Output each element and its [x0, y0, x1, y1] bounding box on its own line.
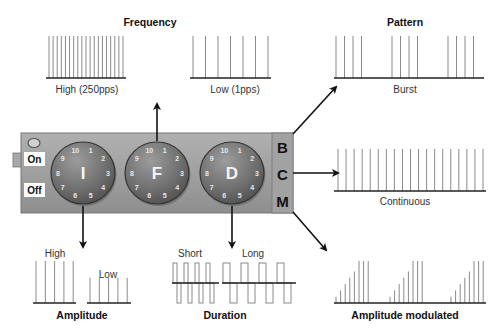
dial-number: 6: [222, 192, 226, 199]
pulse-phase-negative: [248, 283, 255, 303]
pulse-phase-negative: [210, 283, 214, 303]
pulse-phase-positive: [173, 263, 177, 283]
dial-number: 5: [89, 192, 93, 199]
off-label: Off: [27, 185, 42, 196]
dial-number: 3: [106, 170, 110, 177]
continuous-label: Continuous: [380, 196, 431, 207]
knob-letter: D: [226, 164, 238, 183]
dial-number: 3: [180, 170, 184, 177]
dial-number: 7: [210, 184, 214, 191]
pulse-phase-positive: [241, 263, 248, 283]
dial-number: 2: [175, 155, 179, 162]
dial-number: 9: [210, 155, 214, 162]
tens-diagram: Frequency Pattern High (250pps) Low (1pp…: [0, 0, 498, 333]
dial-number: 5: [238, 192, 242, 199]
dial-number: 9: [61, 155, 65, 162]
dial-number: 4: [175, 184, 179, 191]
dial-number: 8: [205, 170, 209, 177]
on-label: On: [28, 154, 42, 165]
continuous-waveform: [334, 149, 486, 191]
mode-button-modulated[interactable]: M: [276, 193, 289, 210]
amplitude-modulated-waveform: [334, 261, 486, 303]
dial-number: 8: [130, 170, 134, 177]
indicator-light-icon: [28, 139, 40, 148]
dial-number: 7: [61, 184, 65, 191]
dial-number: 10: [145, 147, 153, 154]
knob-letter: F: [152, 164, 162, 183]
duration-short-label: Short: [178, 248, 202, 259]
pulse-phase-positive: [206, 263, 210, 283]
frequency-high-waveform: [46, 36, 126, 78]
stimulator-device: On Off 10123456789I10123456789F101234567…: [13, 133, 293, 213]
pulse-phase-positive: [277, 263, 284, 283]
amplitude-high-waveform: [33, 261, 76, 303]
dial-number: 10: [71, 147, 79, 154]
mode-button-continuous[interactable]: C: [277, 166, 288, 183]
pulse-phase-positive: [184, 263, 188, 283]
pulse-phase-positive: [259, 263, 266, 283]
dial-number: 3: [255, 170, 259, 177]
dial-number: 6: [73, 192, 77, 199]
pattern-title: Pattern: [387, 16, 423, 28]
dial-number: 1: [238, 147, 242, 154]
mode-button-burst[interactable]: B: [277, 139, 288, 156]
frequency-high-label: High (250pps): [56, 84, 119, 95]
dial-number: 1: [89, 147, 93, 154]
burst-label: Burst: [393, 84, 417, 95]
duration-waveform: [172, 263, 296, 303]
dial-number: 2: [101, 155, 105, 162]
pulse-phase-negative: [177, 283, 181, 303]
amplitude-modulated-label: Amplitude modulated: [351, 309, 458, 321]
pulse-phase-negative: [188, 283, 192, 303]
dial-number: 1: [163, 147, 167, 154]
arrow-to-amplitude-modulated: [293, 212, 326, 250]
pulse-phase-positive: [223, 263, 230, 283]
dial-number: 8: [56, 170, 60, 177]
dial-number: 9: [135, 155, 139, 162]
pulse-phase-negative: [266, 283, 273, 303]
arrow-to-burst: [293, 87, 336, 134]
pulse-phase-negative: [230, 283, 237, 303]
frequency-low-waveform: [190, 36, 271, 78]
burst-waveform: [334, 36, 484, 78]
amplitude-title: Amplitude: [56, 309, 107, 321]
duration-title: Duration: [203, 309, 246, 321]
frequency-title: Frequency: [123, 16, 176, 28]
amplitude-high-label: High: [45, 248, 66, 259]
dial-number: 2: [250, 155, 254, 162]
dial-number: 4: [101, 184, 105, 191]
frequency-low-label: Low (1pps): [210, 84, 259, 95]
pulse-phase-negative: [199, 283, 203, 303]
pulse-phase-positive: [195, 263, 199, 283]
duration-long-label: Long: [242, 248, 264, 259]
pulse-phase-negative: [284, 283, 291, 303]
dial-number: 10: [220, 147, 228, 154]
knob-letter: I: [81, 164, 86, 183]
dial-number: 4: [250, 184, 254, 191]
dial-number: 7: [135, 184, 139, 191]
dial-number: 6: [147, 192, 151, 199]
dial-number: 5: [163, 192, 167, 199]
amplitude-low-waveform: [87, 278, 131, 303]
